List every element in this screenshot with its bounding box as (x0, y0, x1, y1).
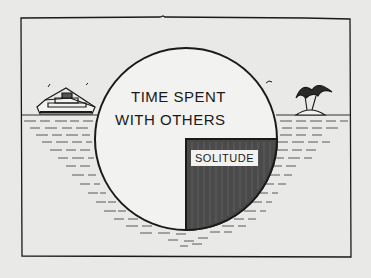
others-label-line1: TIME SPENT (131, 88, 226, 105)
palm-island-icon (296, 85, 332, 115)
pie (95, 48, 277, 230)
ship-icon (37, 83, 95, 114)
others-label-line2: WITH OTHERS (115, 111, 226, 128)
seagull-icon (266, 81, 272, 83)
solitude-label: SOLITUDE (191, 150, 258, 166)
cartoon-chart (0, 0, 371, 278)
